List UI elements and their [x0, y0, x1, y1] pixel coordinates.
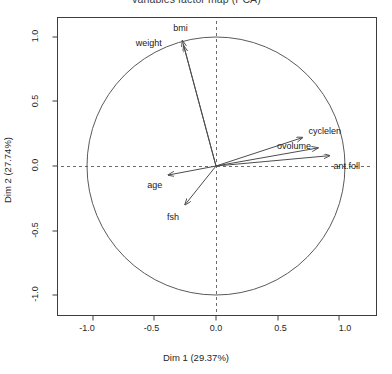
- variable-label-cyclelen: cyclelen: [308, 126, 341, 136]
- reference-lines: [61, 21, 373, 312]
- x-axis-title: Dim 1 (29.37%): [0, 352, 392, 363]
- variable-label-fsh: fsh: [0, 212, 179, 222]
- variable-arrows: [168, 41, 329, 205]
- axis-ticks-x: [93, 316, 339, 321]
- x-tick-label: -0.5: [144, 323, 160, 333]
- x-tick-label: 0.5: [274, 323, 287, 333]
- x-tick-label: -1.0: [79, 323, 95, 333]
- variable-label-bmi: bmi: [173, 23, 188, 33]
- y-tick-label: -1.0: [30, 281, 40, 307]
- variable-arrow-age: [168, 166, 216, 175]
- y-tick-label: 0.0: [30, 152, 40, 178]
- variable-arrow-fsh: [185, 166, 216, 205]
- variable-label-ovolume: ovolume: [277, 141, 311, 151]
- axis-ticks-y: [53, 37, 58, 295]
- variable-arrow-weight: [184, 46, 216, 166]
- x-tick-label: 0.0: [210, 323, 223, 333]
- variable-label-weight: weight: [0, 38, 162, 48]
- pca-variables-factor-map: Variables factor map (PCA): [0, 0, 392, 374]
- x-tick-label: 1.0: [339, 323, 352, 333]
- variable-label-ant.foll: ant.foll: [334, 161, 361, 171]
- y-tick-label: 0.5: [30, 88, 40, 114]
- variable-label-age: age: [0, 180, 162, 190]
